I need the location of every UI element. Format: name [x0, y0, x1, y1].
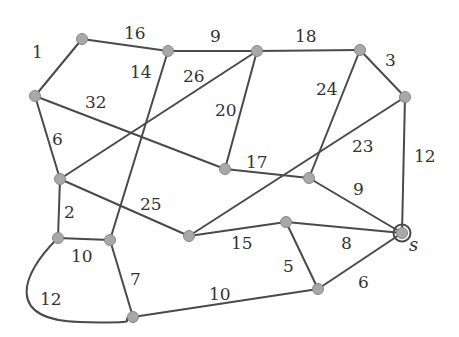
edge-weight-E-L: 23 [352, 136, 374, 156]
edge-F-H [35, 96, 225, 169]
edge-C-D [257, 50, 360, 51]
node-J [53, 233, 64, 244]
node-K [105, 235, 116, 246]
source-node-label: s [409, 234, 418, 255]
edge-weight-E-S: 12 [414, 146, 436, 166]
node-A [77, 34, 88, 45]
node-C [252, 46, 263, 57]
edge-weight-F-H: 32 [85, 92, 107, 112]
edge-E-S [402, 97, 405, 233]
edge-G-J [58, 179, 60, 238]
edge-weight-A-F: 1 [32, 42, 43, 62]
edge-weight-B-C: 9 [210, 26, 221, 46]
edge-weight-B-K: 14 [130, 62, 152, 82]
edge-weight-D-E: 3 [385, 50, 396, 70]
node-H [220, 164, 231, 175]
edge-weight-L-M: 15 [231, 233, 253, 253]
nodes-layer [30, 34, 411, 323]
node-O [313, 284, 324, 295]
edge-weight-J-K: 10 [71, 246, 93, 266]
edge-weight-O-S: 6 [358, 272, 369, 292]
edge-weight-G-L: 25 [140, 194, 162, 214]
edge-weight-D-I: 24 [316, 79, 338, 99]
edge-J-K [58, 238, 110, 240]
edge-weight-H-I: 17 [246, 152, 268, 172]
edge-weight-M-O: 5 [283, 256, 294, 276]
node-I [304, 173, 315, 184]
node-D [355, 45, 366, 56]
edge-weight-C-D: 18 [295, 26, 317, 46]
edge-weight-G-J: 2 [64, 202, 75, 222]
node-F [30, 91, 41, 102]
node-E [400, 92, 411, 103]
edge-D-E [360, 50, 405, 97]
edge-G-L [60, 179, 189, 236]
node-N [128, 312, 139, 323]
edge-weight-J-N: 12 [40, 289, 62, 309]
source-node [397, 228, 408, 239]
edge-weight-K-N: 7 [130, 269, 141, 289]
edge-weight-A-B: 16 [124, 23, 146, 43]
node-B [163, 46, 174, 57]
node-M [281, 217, 292, 228]
edge-weight-N-O: 10 [209, 284, 231, 304]
node-G [55, 174, 66, 185]
edge-D-I [309, 50, 360, 178]
node-L [184, 231, 195, 242]
graph-diagram: 1169183121426322062423179225107121585610… [0, 0, 459, 337]
edges-layer [27, 39, 405, 322]
edge-weight-C-G: 26 [183, 66, 205, 86]
edge-weight-I-S: 9 [353, 179, 364, 199]
edge-weight-M-S: 8 [341, 233, 352, 253]
edge-weight-F-G: 6 [52, 129, 63, 149]
edge-weight-C-H: 20 [215, 100, 237, 120]
